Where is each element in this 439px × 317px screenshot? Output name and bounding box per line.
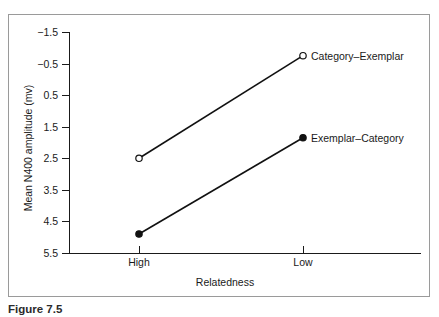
filled-circle-marker bbox=[300, 135, 306, 141]
series-label: Category–Exemplar bbox=[311, 50, 404, 61]
series-plot bbox=[0, 0, 439, 317]
figure-root: −1.5−0.50.51.52.53.54.55.5 HighLow Mean … bbox=[0, 0, 439, 317]
series-label: Exemplar–Category bbox=[311, 133, 404, 144]
open-circle-marker bbox=[300, 52, 306, 58]
series-line bbox=[139, 56, 303, 159]
filled-circle-marker bbox=[136, 231, 142, 237]
plot-area: −1.5−0.50.51.52.53.54.55.5 HighLow Mean … bbox=[0, 0, 439, 317]
figure-caption: Figure 7.5 bbox=[8, 304, 62, 316]
series-line bbox=[139, 138, 303, 234]
open-circle-marker bbox=[136, 155, 142, 161]
